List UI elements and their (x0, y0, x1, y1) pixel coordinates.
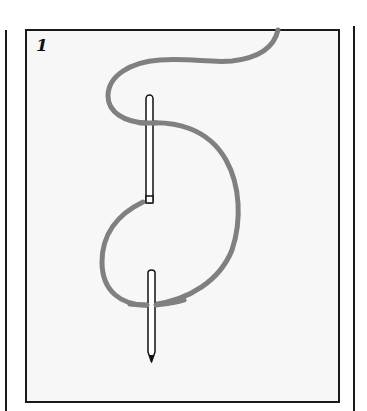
needle-upper-segment (146, 95, 153, 203)
needle-thread-illustration (0, 0, 367, 411)
needle-lower-segment (148, 270, 155, 362)
thread-path (102, 30, 278, 305)
